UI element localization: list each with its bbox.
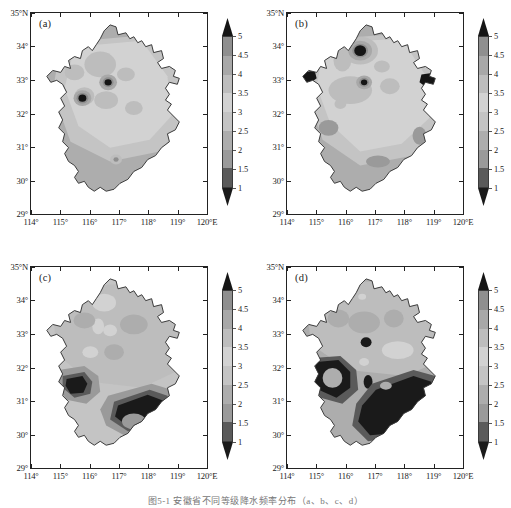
y-tick-mark — [203, 334, 207, 335]
y-tick-label: 33° — [273, 75, 284, 85]
x-tick-label: 114° — [23, 471, 38, 481]
x-tick-label: 117° — [367, 471, 382, 481]
x-tick-mark — [375, 13, 376, 17]
y-tick-mark — [287, 214, 291, 215]
x-tick-mark — [463, 464, 464, 468]
y-tick-mark — [459, 46, 463, 47]
y-tick-label: 34° — [273, 41, 284, 51]
y-tick-label: 30° — [273, 176, 284, 186]
y-tick-mark — [459, 214, 463, 215]
x-tick-mark — [287, 13, 288, 17]
y-tick-label: 34° — [17, 41, 28, 51]
colorbar-label-1: 1 — [238, 184, 242, 193]
y-tick-label: 32° — [17, 363, 28, 373]
colorbar-label-3: 3 — [238, 362, 242, 371]
x-tick-mark — [60, 210, 61, 214]
colorbar-arrow-bottom — [478, 188, 489, 206]
y-tick-mark — [31, 181, 35, 182]
y-tick-mark — [287, 401, 291, 402]
x-tick-mark — [90, 267, 91, 271]
colorbar-arrow-bottom — [222, 188, 233, 206]
y-tick-mark — [287, 435, 291, 436]
x-tick-mark — [207, 210, 208, 214]
y-tick-label: 32° — [273, 363, 284, 373]
y-tick-mark — [459, 435, 463, 436]
colorbar-label-4p5: 4.5 — [494, 51, 504, 60]
x-tick-mark — [375, 267, 376, 271]
colorbar-label-4p5: 4.5 — [238, 305, 248, 314]
colorbar-bar — [478, 36, 489, 188]
y-tick-mark — [287, 368, 291, 369]
panel-d: (d) — [256, 254, 511, 508]
colorbar-label-2p5: 2.5 — [238, 381, 248, 390]
colorbar-arrow-top — [478, 272, 489, 290]
x-tick-label: 116° — [338, 471, 353, 481]
y-tick-mark — [31, 147, 35, 148]
panel-d-axes: (d) — [286, 266, 464, 469]
y-tick-mark — [459, 368, 463, 369]
y-tick-label: 30° — [17, 176, 28, 186]
colorbar-arrow-bottom — [478, 442, 489, 460]
x-tick-label: 115° — [53, 217, 68, 227]
x-tick-label: 115° — [53, 471, 68, 481]
x-tick-label: 118° — [397, 471, 412, 481]
y-tick-mark — [287, 300, 291, 301]
x-tick-label: 118° — [141, 217, 156, 227]
x-tick-mark — [31, 267, 32, 271]
panel-b-colorbar: 5 4.5 4 3.5 3 2.5 2 1.5 1 — [471, 18, 511, 208]
y-tick-mark — [459, 80, 463, 81]
y-tick-label: 32° — [273, 109, 284, 119]
y-tick-mark — [203, 468, 207, 469]
x-tick-mark — [90, 13, 91, 17]
x-tick-label: 120°E — [453, 217, 474, 227]
panel-d-tag: (d) — [295, 272, 308, 283]
x-tick-mark — [90, 464, 91, 468]
x-tick-mark — [434, 464, 435, 468]
y-tick-label: 35°N — [267, 262, 284, 272]
x-tick-mark — [207, 267, 208, 271]
x-tick-mark — [316, 210, 317, 214]
colorbar-label-3p5: 3.5 — [238, 343, 248, 352]
figure-root: (a) — [0, 0, 511, 508]
y-tick-mark — [31, 334, 35, 335]
panel-c-tag: (c) — [39, 272, 51, 283]
y-tick-label: 33° — [17, 75, 28, 85]
panel-c-axes: (c) — [30, 266, 208, 469]
x-tick-mark — [31, 464, 32, 468]
x-tick-label: 115° — [309, 217, 324, 227]
colorbar-label-1p5: 1.5 — [238, 419, 248, 428]
x-tick-label: 119° — [426, 471, 441, 481]
y-tick-label: 35°N — [11, 262, 28, 272]
y-tick-mark — [31, 214, 35, 215]
x-tick-label: 114° — [279, 471, 294, 481]
x-tick-label: 114° — [279, 217, 294, 227]
y-tick-label: 35°N — [11, 8, 28, 18]
y-tick-label: 35°N — [267, 8, 284, 18]
colorbar-bar — [222, 290, 233, 442]
colorbar-label-3p5: 3.5 — [494, 89, 504, 98]
panel-a-tag: (a) — [39, 18, 51, 29]
y-tick-mark — [459, 401, 463, 402]
colorbar-label-5: 5 — [494, 286, 498, 295]
colorbar-label-2p5: 2.5 — [494, 381, 504, 390]
colorbar-label-3: 3 — [494, 108, 498, 117]
y-tick-label: 31° — [17, 396, 28, 406]
colorbar-label-4: 4 — [238, 70, 242, 79]
x-tick-label: 117° — [111, 471, 126, 481]
colorbar-label-3: 3 — [494, 362, 498, 371]
y-tick-mark — [31, 435, 35, 436]
x-tick-mark — [346, 210, 347, 214]
x-tick-label: 119° — [170, 471, 185, 481]
x-tick-label: 120°E — [197, 217, 218, 227]
panel-d-map — [287, 267, 463, 468]
x-tick-mark — [31, 13, 32, 17]
x-tick-mark — [375, 210, 376, 214]
colorbar-label-4p5: 4.5 — [238, 51, 248, 60]
y-tick-mark — [287, 334, 291, 335]
panel-a-map — [31, 13, 207, 214]
x-tick-mark — [434, 210, 435, 214]
x-tick-mark — [287, 267, 288, 271]
y-tick-mark — [203, 147, 207, 148]
y-tick-mark — [203, 214, 207, 215]
x-tick-mark — [60, 267, 61, 271]
